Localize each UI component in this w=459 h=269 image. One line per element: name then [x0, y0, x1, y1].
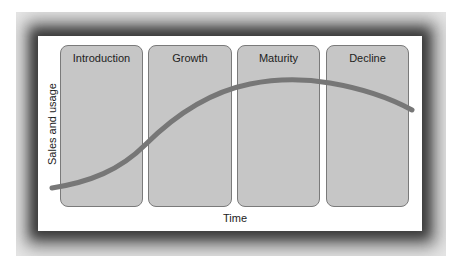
life-cycle-curve: [0, 0, 459, 269]
x-axis-label: Time: [223, 212, 247, 224]
y-axis-label: Sales and usage: [46, 83, 58, 165]
